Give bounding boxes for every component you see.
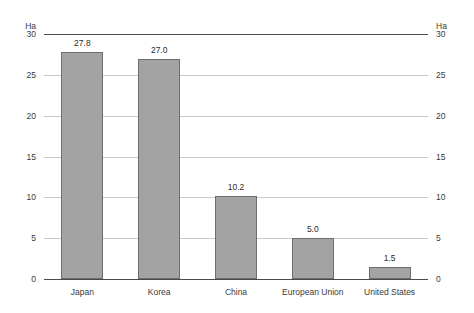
bar-value-china: 10.2 <box>206 183 266 192</box>
gridline-30 <box>44 34 428 35</box>
y-tick-right-10: 10 <box>436 193 472 202</box>
y-tick-right-30: 30 <box>436 30 472 39</box>
bar-china <box>215 196 257 279</box>
bar-value-japan: 27.8 <box>52 39 112 48</box>
bar-korea <box>138 59 180 280</box>
bar-japan <box>61 52 103 279</box>
y-tick-right-5: 5 <box>436 234 472 243</box>
y-tick-right-25: 25 <box>436 71 472 80</box>
bar-value-korea: 27.0 <box>129 46 189 55</box>
y-tick-left-0: 0 <box>0 275 36 284</box>
y-tick-left-15: 15 <box>0 153 36 162</box>
bar-united-states <box>369 267 411 279</box>
y-tick-right-0: 0 <box>436 275 472 284</box>
y-tick-left-10: 10 <box>0 193 36 202</box>
y-tick-left-30: 30 <box>0 30 36 39</box>
y-tick-right-20: 20 <box>436 112 472 121</box>
bar-value-european-union: 5.0 <box>283 225 343 234</box>
y-tick-left-5: 5 <box>0 234 36 243</box>
bar-value-united-states: 1.5 <box>360 254 420 263</box>
bar-european-union <box>292 238 334 279</box>
y-tick-right-15: 15 <box>436 153 472 162</box>
gridline-0 <box>44 279 428 280</box>
category-label-united-states: United States <box>335 288 445 297</box>
y-tick-left-25: 25 <box>0 71 36 80</box>
y-tick-left-20: 20 <box>0 112 36 121</box>
